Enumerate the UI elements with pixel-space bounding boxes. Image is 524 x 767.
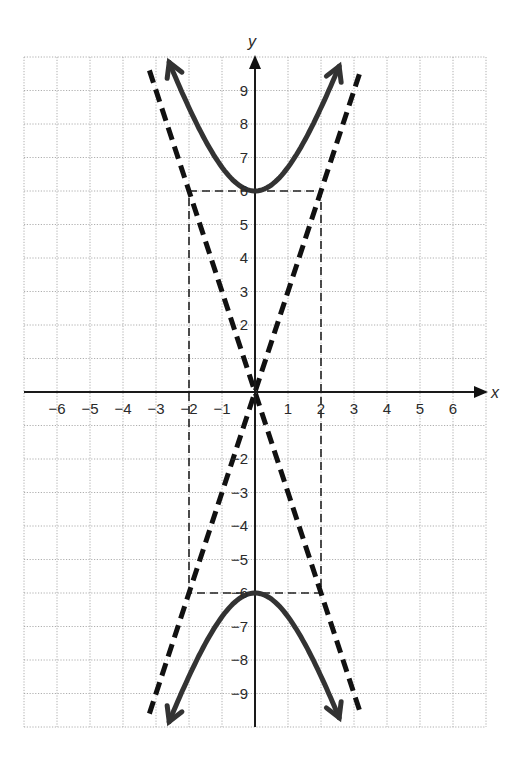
y-tick-label: −4	[231, 517, 248, 534]
x-tick-label: 2	[317, 400, 325, 417]
y-tick-label: 3	[240, 283, 248, 300]
x-tick-label: −1	[213, 400, 230, 417]
y-tick-label: 5	[240, 216, 248, 233]
y-tick-label: −2	[231, 450, 248, 467]
y-tick-label: −3	[231, 484, 248, 501]
hyperbola-graph: xy −6−5−4−3−2−112345698765432−2−3−4−5−6−…	[0, 0, 524, 767]
y-tick-label: 4	[240, 249, 248, 266]
y-tick-label: 2	[240, 316, 248, 333]
y-axis-label: y	[247, 33, 257, 50]
x-tick-label: −4	[114, 400, 131, 417]
x-tick-label: 4	[383, 400, 391, 417]
y-tick-label: 8	[240, 115, 248, 132]
x-tick-label: 5	[416, 400, 424, 417]
x-tick-label: 6	[449, 400, 457, 417]
x-tick-label: −3	[147, 400, 164, 417]
y-tick-label: −9	[231, 685, 248, 702]
y-tick-label: −7	[231, 618, 248, 635]
x-tick-label: −2	[180, 400, 197, 417]
x-tick-label: −6	[48, 400, 65, 417]
x-tick-label: −5	[81, 400, 98, 417]
y-tick-label: −5	[231, 551, 248, 568]
x-tick-label: 3	[350, 400, 358, 417]
y-tick-label: −6	[231, 584, 248, 601]
x-tick-label: 1	[284, 400, 292, 417]
y-tick-label: −8	[231, 651, 248, 668]
y-tick-label: 6	[240, 182, 248, 199]
axes: xy	[24, 33, 500, 727]
y-tick-label: 9	[240, 82, 248, 99]
x-axis-label: x	[490, 384, 500, 401]
y-tick-label: 7	[240, 149, 248, 166]
